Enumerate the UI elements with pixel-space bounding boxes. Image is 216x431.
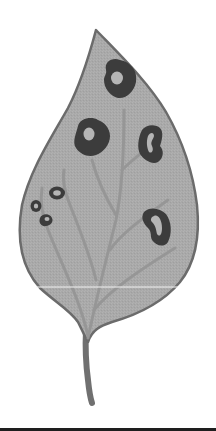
leaf-svg <box>0 0 216 431</box>
leaf-illustration <box>0 0 216 431</box>
